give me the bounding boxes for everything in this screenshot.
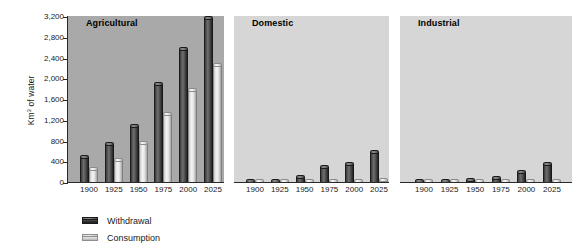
x-axis-tick-label: 2025 xyxy=(370,185,388,194)
bar-top-ellipse xyxy=(370,150,379,154)
bar-group xyxy=(296,16,314,182)
bar-body xyxy=(320,167,329,182)
x-axis-tick-label: 1900 xyxy=(246,185,264,194)
bar-group xyxy=(441,16,459,182)
x-axis-tick-label: 1950 xyxy=(296,185,314,194)
y-axis-tick-label: 2,800 xyxy=(44,34,64,42)
x-axis-tick-label: 2025 xyxy=(204,185,222,194)
bar-group xyxy=(271,16,289,182)
y-axis-tick-mark xyxy=(63,183,68,184)
bar-body xyxy=(114,160,123,182)
bar-withdrawal[interactable] xyxy=(204,16,213,182)
y-axis-title-base: Km xyxy=(26,112,36,125)
x-axis-tick-label: 1900 xyxy=(415,185,433,194)
y-axis-tick-label: 2,400 xyxy=(44,55,64,63)
panel-title-industrial: Industrial xyxy=(418,18,460,28)
water-use-chart-figure: Km3 of water 04008001,2001,6002,0002,400… xyxy=(0,0,577,251)
bar-body xyxy=(213,65,222,182)
bar-top-ellipse xyxy=(296,175,305,179)
bar-body xyxy=(204,18,213,182)
chart-legend: WithdrawalConsumption xyxy=(82,212,252,246)
bar-withdrawal[interactable] xyxy=(543,162,552,182)
bar-group xyxy=(370,16,388,182)
bars-area-industrial xyxy=(400,16,572,182)
bar-consumption[interactable] xyxy=(163,112,172,182)
legend-swatch-top xyxy=(82,217,98,220)
x-axis-tick-label: 1925 xyxy=(271,185,289,194)
bar-group xyxy=(204,16,222,182)
x-axis-tick-label: 1975 xyxy=(492,185,510,194)
bar-body xyxy=(543,164,552,182)
bar-withdrawal[interactable] xyxy=(154,82,163,182)
bar-body xyxy=(370,152,379,182)
y-axis-tick-label: 400 xyxy=(51,158,64,166)
legend-swatch-body xyxy=(82,236,98,241)
bar-body xyxy=(163,114,172,182)
panel-domestic: Domestic xyxy=(234,16,389,183)
x-axis-tick-label: 1950 xyxy=(466,185,484,194)
bar-consumption[interactable] xyxy=(139,141,148,183)
bar-withdrawal[interactable] xyxy=(517,170,526,182)
bar-top-ellipse xyxy=(517,170,526,174)
legend-label: Consumption xyxy=(107,233,160,243)
panel-agricultural: Agricultural xyxy=(68,16,224,183)
bar-top-ellipse xyxy=(213,63,222,67)
bar-consumption[interactable] xyxy=(114,158,123,182)
x-axis-line xyxy=(68,182,224,183)
legend-swatch-body xyxy=(82,219,98,224)
bar-group xyxy=(517,16,535,182)
y-axis-tick-label: 1,200 xyxy=(44,117,64,125)
bar-top-ellipse xyxy=(204,16,213,20)
legend-item[interactable]: Withdrawal xyxy=(82,212,252,229)
bar-group xyxy=(105,16,123,182)
legend-item[interactable]: Consumption xyxy=(82,229,252,246)
bar-top-ellipse xyxy=(139,141,148,145)
x-axis-tick-labels-industrial: 190019251950197520002025 xyxy=(400,185,572,197)
x-axis-tick-label: 1975 xyxy=(320,185,338,194)
bar-top-ellipse xyxy=(163,112,172,116)
bar-body xyxy=(345,164,354,182)
bar-body xyxy=(139,143,148,183)
bar-group xyxy=(345,16,363,182)
bar-body xyxy=(188,90,197,182)
bar-withdrawal[interactable] xyxy=(105,142,114,182)
x-axis-tick-label: 2025 xyxy=(543,185,561,194)
x-axis-line xyxy=(400,182,572,183)
x-axis-tick-labels-agricultural: 190019251950197520002025 xyxy=(68,185,224,197)
bar-group xyxy=(154,16,172,182)
legend-swatch-consumption xyxy=(82,234,98,241)
x-axis-tick-label: 2000 xyxy=(517,185,535,194)
y-axis-tick-label: 1,600 xyxy=(44,96,64,104)
bar-withdrawal[interactable] xyxy=(80,155,89,182)
bar-withdrawal[interactable] xyxy=(320,165,329,182)
bar-consumption[interactable] xyxy=(213,63,222,182)
x-axis-tick-label: 2000 xyxy=(345,185,363,194)
bar-top-ellipse xyxy=(179,47,188,51)
bar-group xyxy=(179,16,197,182)
y-axis-tick-label: 3,200 xyxy=(44,13,64,21)
x-axis-tick-label: 1900 xyxy=(80,185,98,194)
bar-top-ellipse xyxy=(492,176,501,180)
bar-withdrawal[interactable] xyxy=(296,175,305,182)
bar-top-ellipse xyxy=(105,142,114,146)
bar-consumption[interactable] xyxy=(188,88,197,182)
bar-body xyxy=(154,84,163,182)
x-axis-tick-label: 1950 xyxy=(130,185,148,194)
x-axis-tick-label: 1975 xyxy=(154,185,172,194)
bar-body xyxy=(179,49,188,182)
x-axis-tick-label: 1925 xyxy=(441,185,459,194)
bar-group xyxy=(130,16,148,182)
panel-title-domestic: Domestic xyxy=(252,18,293,28)
bar-withdrawal[interactable] xyxy=(370,150,379,182)
y-axis-tick-label: 800 xyxy=(51,138,64,146)
bar-withdrawal[interactable] xyxy=(345,162,354,182)
bar-withdrawal[interactable] xyxy=(179,47,188,182)
x-axis-tick-labels-domestic: 190019251950197520002025 xyxy=(234,185,389,197)
bar-group xyxy=(466,16,484,182)
bar-withdrawal[interactable] xyxy=(130,124,139,182)
bar-top-ellipse xyxy=(89,167,98,171)
bar-group xyxy=(246,16,264,182)
bars-area-domestic xyxy=(234,16,389,182)
bar-consumption[interactable] xyxy=(89,167,98,182)
legend-swatch-withdrawal xyxy=(82,217,98,224)
